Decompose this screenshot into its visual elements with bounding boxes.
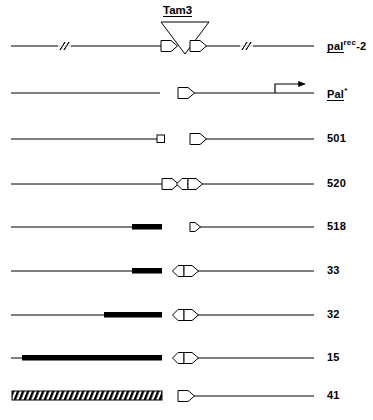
row-label-pal-rec-2-suffix: -2 <box>356 40 366 52</box>
hatched-deletion-bar <box>12 391 162 400</box>
deletion-bar <box>104 312 162 318</box>
row-520 <box>11 179 314 190</box>
row-label-pal-star-sup: * <box>344 86 347 95</box>
row-15 <box>11 353 314 364</box>
gene-pentagon-reversed <box>173 266 185 277</box>
row-label-pal-star: Pal* <box>327 86 347 100</box>
row-pal-star <box>11 84 314 99</box>
deletion-bar <box>132 224 162 230</box>
gene-pentagon <box>190 223 201 232</box>
transcription-arrow <box>275 84 305 93</box>
row-33 <box>11 266 314 277</box>
row-label-pal-rec-2-sup: rec <box>344 38 357 47</box>
small-square-marker <box>157 135 165 143</box>
row-label-41: 41 <box>327 389 340 401</box>
row-pal-rec-2 <box>11 22 314 54</box>
row-label-pal-rec-2-base: pal <box>327 40 344 53</box>
row-label-520: 520 <box>327 177 346 189</box>
row-32 <box>11 310 314 321</box>
tam3-label: Tam3 <box>163 4 192 16</box>
row-501 <box>11 134 314 145</box>
discontinuity-mark-right <box>240 42 253 50</box>
gene-pentagon <box>178 391 195 402</box>
gene-pentagon-reversed <box>173 353 185 364</box>
gene-pentagon-right <box>184 266 199 277</box>
gene-pentagon-right <box>184 353 199 364</box>
gene-pentagon-right <box>190 41 207 52</box>
gene-pentagon-reversed <box>173 310 185 321</box>
row-label-pal-star-base: Pal <box>327 88 344 101</box>
row-label-501: 501 <box>327 132 346 144</box>
discontinuity-mark-left <box>58 42 71 50</box>
row-41 <box>12 391 314 402</box>
deletion-map-diagram <box>0 0 373 420</box>
deletion-bar <box>22 355 162 361</box>
row-label-32: 32 <box>327 308 340 320</box>
row-518 <box>11 223 314 232</box>
row-label-pal-rec-2: palrec-2 <box>327 38 366 52</box>
row-label-518: 518 <box>327 220 346 232</box>
gene-pentagon <box>190 134 207 145</box>
row-label-15: 15 <box>327 351 340 363</box>
gene-pentagon <box>178 88 195 99</box>
gene-pentagon-right <box>188 179 203 190</box>
tam3-label-text: Tam3 <box>163 4 192 17</box>
gene-pentagon-reversed <box>177 179 189 190</box>
gene-pentagon-right <box>184 310 199 321</box>
deletion-bar <box>132 268 162 274</box>
gene-pentagon-left <box>161 41 178 52</box>
row-label-33: 33 <box>327 264 340 276</box>
